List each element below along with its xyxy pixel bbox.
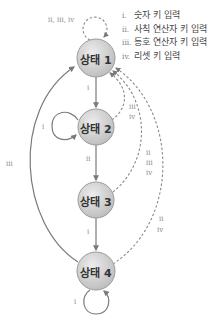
- legend-item-number: ii.: [122, 24, 134, 37]
- legend-item-label: 등호 연산자 키 입력: [134, 37, 207, 47]
- legend-item-label: 리셋 키 입력: [134, 51, 180, 61]
- legend-item-number: i.: [122, 10, 134, 23]
- edge-label-s4-to-s1-a: ii: [159, 215, 163, 224]
- edge-s2-self-loop: [52, 112, 78, 139]
- edge-label-s1-self: ii, iii, iv: [48, 16, 74, 25]
- edge-s1-self-loop: [83, 17, 107, 40]
- edge-label-s3-to-s4: i: [87, 228, 89, 237]
- edge-label-s2-to-s3: ii: [86, 155, 90, 164]
- edge-label-s1-to-s2: i: [87, 84, 89, 93]
- edge-label-s3-to-s1-c: iv: [146, 169, 152, 178]
- legend-item: ii.사칙 연산자 키 입력: [122, 23, 207, 37]
- legend-item: i.숫자 키 입력: [122, 9, 207, 23]
- state-label-1: 상태 1: [76, 51, 116, 67]
- edge-label-s4-self: i: [74, 298, 76, 307]
- edge-s4-to-s1-left-arc: [30, 67, 78, 262]
- state-label-3: 상태 3: [76, 193, 116, 209]
- edge-label-s4-to-s1-b: iv: [157, 226, 163, 235]
- edge-label-s2-to-s1-a: iii: [129, 103, 136, 112]
- state-diagram: 상태 1 상태 2 상태 3 상태 4 ii, iii, iv i i ii i…: [0, 0, 216, 319]
- edge-label-s4-to-s1-left: iii: [6, 160, 13, 169]
- legend-item: iv.리셋 키 입력: [122, 50, 207, 64]
- edge-s2-to-s1-dashed: [110, 73, 125, 120]
- legend: i.숫자 키 입력 ii.사칙 연산자 키 입력 iii.등호 연산자 키 입력…: [122, 9, 207, 63]
- state-label-2: 상태 2: [76, 120, 116, 136]
- legend-item-label: 숫자 키 입력: [134, 10, 180, 20]
- edge-label-s3-to-s1-b: iii: [146, 159, 153, 168]
- legend-item-number: iv.: [122, 51, 134, 64]
- state-label-4: 상태 4: [76, 264, 116, 280]
- legend-item: iii.등호 연산자 키 입력: [122, 36, 207, 50]
- edge-s4-to-s1-dashed: [113, 68, 163, 264]
- legend-item-number: iii.: [122, 37, 134, 50]
- edge-s4-self-loop: [84, 290, 109, 314]
- legend-item-label: 사칙 연산자 키 입력: [134, 24, 207, 34]
- edge-label-s2-to-s1-b: iv: [129, 113, 135, 122]
- edge-s3-to-s1-dashed: [113, 71, 142, 192]
- edge-label-s2-self: i: [42, 123, 44, 132]
- edge-label-s3-to-s1-a: ii: [146, 149, 150, 158]
